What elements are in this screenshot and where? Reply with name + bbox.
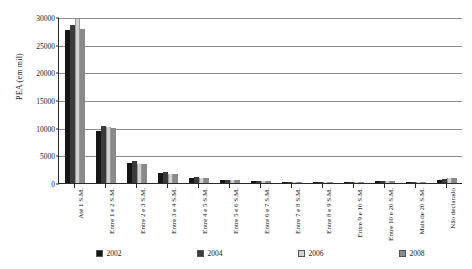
legend-swatch	[298, 250, 305, 257]
y-tick-label: 15000	[36, 97, 55, 106]
x-tick-label: Entre 2 e 3 S.M.	[139, 188, 147, 234]
x-label-cell: Entre 3 e 4 S.M.	[151, 188, 182, 244]
legend-item[interactable]: 2008	[399, 249, 425, 258]
y-axis-title: PEA (em mil)	[15, 32, 24, 122]
x-label-cell: Até 1 S.M.	[58, 188, 89, 244]
bar-group	[276, 18, 307, 183]
bar	[235, 180, 240, 183]
bar	[452, 178, 457, 183]
x-label-cell: Entre 10 e 20 S.M.	[369, 188, 400, 244]
legend-label: 2006	[309, 249, 324, 258]
bar-chart: PEA (em mil) 050001000015000200002500030…	[0, 0, 472, 269]
x-label-cell: Não declarado	[431, 188, 462, 244]
x-label-cell: Mais de 20 S.M.	[400, 188, 431, 244]
bar	[80, 29, 85, 183]
bar	[421, 182, 426, 183]
legend-item[interactable]: 2006	[298, 249, 324, 258]
bar	[390, 181, 395, 183]
x-tick-label: Até 1 S.M.	[77, 188, 85, 219]
bar-group	[183, 18, 214, 183]
bar-group	[214, 18, 245, 183]
bar	[328, 182, 333, 183]
x-tick-label: Entre 8 e 9 S.M.	[325, 188, 333, 234]
x-label-cell: Entre 6 e 7 S.M.	[244, 188, 275, 244]
bar-groups	[59, 18, 462, 183]
x-axis-labels: Até 1 S.M.Entre 1 e 2 S.M.Entre 2 e 3 S.…	[58, 188, 462, 244]
legend-label: 2008	[410, 249, 425, 258]
x-tick-label: Entre 10 e 20 S.M.	[387, 188, 395, 241]
legend-swatch	[197, 250, 204, 257]
x-label-cell: Entre 2 e 3 S.M.	[120, 188, 151, 244]
x-label-cell: Entre 1 e 2 S.M.	[89, 188, 120, 244]
x-tick-label: Não declarado	[449, 188, 457, 229]
x-tick-label: Mais de 20 S.M.	[418, 188, 426, 234]
bar	[142, 164, 147, 183]
y-tick-label: 5000	[40, 152, 55, 161]
bar-group	[369, 18, 400, 183]
x-tick-label: Entre 3 e 4 S.M.	[170, 188, 178, 234]
bar	[173, 174, 178, 183]
bar	[359, 182, 364, 183]
x-label-cell: Entre 4 e 5 S.M.	[182, 188, 213, 244]
x-tick-label: Entre 4 e 5 S.M.	[201, 188, 209, 234]
bar-group	[431, 18, 462, 183]
bar-group	[245, 18, 276, 183]
y-tick-label: 20000	[36, 69, 55, 78]
bar	[111, 128, 116, 183]
x-tick-label: Entre 9 e 10 S.M.	[356, 188, 364, 237]
x-tick-label: Entre 6 e 7 S.M.	[263, 188, 271, 234]
bar-group	[400, 18, 431, 183]
x-tick-label: Entre 1 e 2 S.M.	[108, 188, 116, 234]
bar	[204, 178, 209, 183]
plot-area: 050001000015000200002500030000	[58, 18, 462, 184]
bar-group	[307, 18, 338, 183]
x-tick-label: Entre 7 e 8 S.M.	[294, 188, 302, 234]
x-label-cell: Entre 7 e 8 S.M.	[276, 188, 307, 244]
bar-group	[121, 18, 152, 183]
legend-label: 2002	[107, 249, 122, 258]
y-tick-label: 30000	[36, 14, 55, 23]
y-tick-label: 0	[51, 180, 55, 189]
legend-swatch	[399, 250, 406, 257]
legend-swatch	[96, 250, 103, 257]
bar-group	[90, 18, 121, 183]
x-label-cell: Entre 5 e 6 S.M.	[213, 188, 244, 244]
chart-legend: 2002200420062008	[58, 249, 462, 258]
y-tick-label: 25000	[36, 41, 55, 50]
bar-group	[338, 18, 369, 183]
bar-group	[59, 18, 90, 183]
x-tick-label: Entre 5 e 6 S.M.	[232, 188, 240, 234]
legend-label: 2004	[208, 249, 223, 258]
x-label-cell: Entre 8 e 9 S.M.	[307, 188, 338, 244]
legend-item[interactable]: 2002	[96, 249, 122, 258]
x-label-cell: Entre 9 e 10 S.M.	[338, 188, 369, 244]
bar	[266, 181, 271, 183]
bar	[297, 182, 302, 183]
legend-item[interactable]: 2004	[197, 249, 223, 258]
y-tick-label: 10000	[36, 124, 55, 133]
bar-group	[152, 18, 183, 183]
